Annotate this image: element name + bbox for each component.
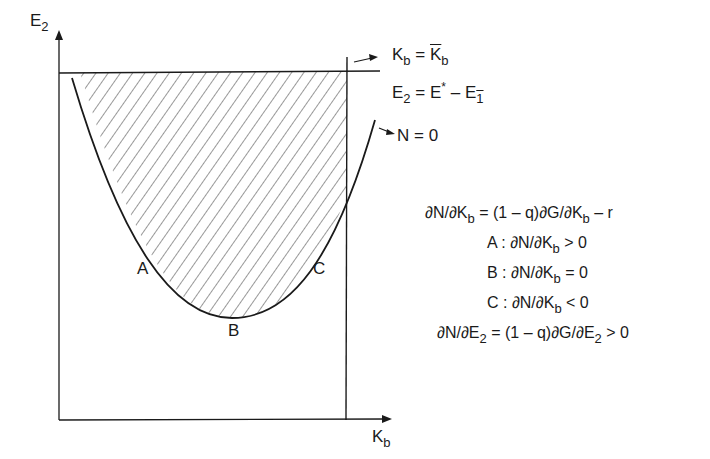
kb-rhs-sub: b (441, 53, 448, 68)
kb-bar-label: Kb = Kb (392, 46, 449, 63)
e2-lhs: E (392, 83, 403, 102)
x-axis-label-sub: b (383, 435, 390, 450)
eq2-rhs-sub: 2 (595, 331, 602, 346)
eq-dn-dkb: ∂N/∂Kb = (1 – q)∂G/∂Kb – r (425, 204, 613, 222)
hatched-region (80, 72, 347, 318)
e2-lhs-sub: 2 (403, 91, 410, 106)
kb-rhs: K (430, 45, 441, 64)
eq-dn-de2: ∂N/∂E2 = (1 – q)∂G/∂E2 > 0 (437, 324, 629, 342)
eq1-rhs: = (1 – q)∂G/∂K (475, 204, 583, 221)
eq1-tail: – r (590, 204, 613, 221)
kb-eq: = (415, 45, 425, 64)
x-axis-label: Kb (372, 428, 391, 445)
eq2-lhs: ∂N/∂E (437, 324, 479, 341)
cond-a: A : ∂N/∂Kb > 0 (487, 234, 587, 252)
n-zero-label: N = 0 (397, 127, 438, 144)
kb-bar-line (346, 57, 347, 420)
kb-lhs: K (392, 45, 403, 64)
e2-minus: – (451, 83, 460, 102)
n-zero-pointer-arrow-icon (386, 129, 395, 135)
eq2-tail: > 0 (602, 324, 629, 341)
cond-b-prefix: B : ∂N/∂K (487, 264, 554, 281)
cond-a-prefix: A : ∂N/∂K (487, 234, 553, 251)
n-zero-text: N = 0 (397, 126, 438, 145)
point-a-label: A (137, 260, 148, 277)
cond-b-sub: b (554, 271, 561, 286)
e2-constraint-label: E2 = E* – E1 (392, 84, 484, 101)
e2-rhs2-sub: 1 (476, 91, 483, 106)
kb-pointer-arrow-icon (369, 54, 378, 61)
cond-a-sub: b (553, 241, 560, 256)
y-axis-label: E2 (30, 12, 49, 29)
cond-b: B : ∂N/∂Kb = 0 (487, 264, 588, 282)
point-c-label: C (313, 260, 325, 277)
diagram-canvas (0, 0, 710, 459)
cond-a-tail: > 0 (560, 234, 587, 251)
eq1-lhs-sub: b (467, 211, 474, 226)
eq1-rhs-sub: b (583, 211, 590, 226)
x-axis (59, 419, 386, 420)
cond-c: C : ∂N/∂Kb < 0 (487, 294, 589, 312)
eq2-lhs-sub: 2 (479, 331, 486, 346)
point-b-label: B (228, 322, 239, 339)
e2-rhs1: E (430, 83, 441, 102)
eq2-rhs: = (1 – q)∂G/∂E (487, 324, 595, 341)
eq1-lhs: ∂N/∂K (425, 204, 467, 221)
e2-eq: = (415, 83, 425, 102)
cond-c-prefix: C : ∂N/∂K (487, 294, 554, 311)
cond-c-sub: b (554, 301, 561, 316)
e2-rhs1-sup: * (441, 80, 446, 94)
y-axis-label-sub: 2 (41, 19, 48, 34)
cond-b-tail: = 0 (561, 264, 588, 281)
kb-pointer (354, 58, 372, 62)
e2-rhs2: E (465, 83, 476, 102)
y-axis-label-main: E (30, 11, 41, 30)
x-axis-arrow-icon (382, 415, 392, 423)
cond-c-tail: < 0 (562, 294, 589, 311)
kb-lhs-sub: b (403, 53, 410, 68)
x-axis-label-main: K (372, 427, 383, 446)
y-axis-arrow-icon (55, 30, 63, 40)
